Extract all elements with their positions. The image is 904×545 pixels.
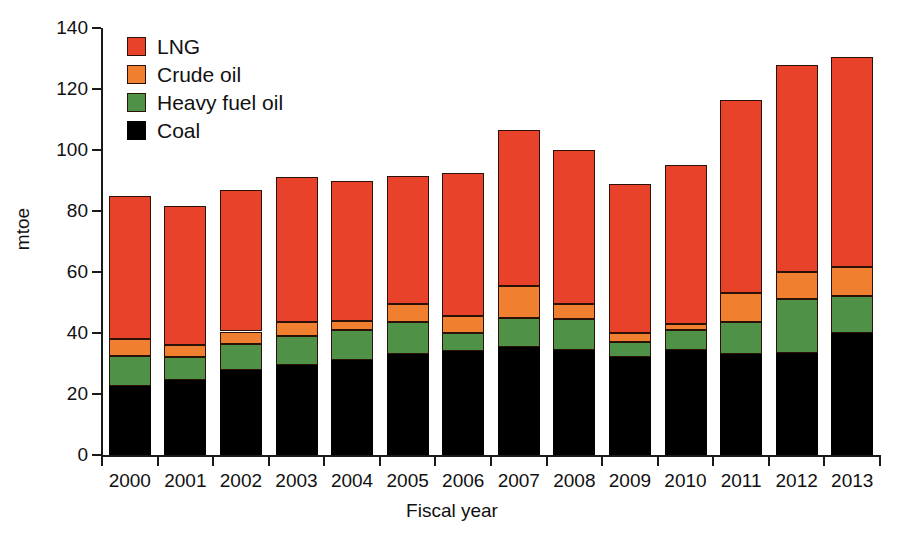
bar-segment-heavy-fuel-oil bbox=[109, 356, 151, 386]
bar-segment-lng bbox=[665, 165, 707, 324]
y-axis-title: mtoe bbox=[12, 184, 34, 274]
bar-segment-coal bbox=[776, 353, 818, 455]
x-axis-tick bbox=[268, 457, 270, 466]
y-axis-tick bbox=[92, 393, 101, 395]
bar-2009 bbox=[609, 28, 651, 455]
bar-segment-crude-oil bbox=[665, 324, 707, 330]
bar-segment-crude-oil bbox=[776, 272, 818, 299]
bar-segment-coal bbox=[164, 380, 206, 455]
bar-segment-heavy-fuel-oil bbox=[609, 342, 651, 357]
bar-segment-lng bbox=[609, 184, 651, 333]
bar-segment-heavy-fuel-oil bbox=[553, 319, 595, 350]
y-axis-tick bbox=[92, 271, 101, 273]
y-axis-tick-label: 20 bbox=[36, 384, 88, 403]
bar-segment-heavy-fuel-oil bbox=[276, 336, 318, 365]
bar-2010 bbox=[665, 28, 707, 455]
bar-2007 bbox=[498, 28, 540, 455]
bar-segment-heavy-fuel-oil bbox=[387, 322, 429, 354]
bar-segment-coal bbox=[220, 370, 262, 455]
legend-item-label: Heavy fuel oil bbox=[157, 92, 283, 113]
y-axis-tick-label: 140 bbox=[36, 18, 88, 37]
bar-segment-crude-oil bbox=[276, 322, 318, 336]
bar-segment-heavy-fuel-oil bbox=[442, 333, 484, 351]
bar-segment-lng bbox=[331, 181, 373, 321]
bar-segment-crude-oil bbox=[164, 345, 206, 357]
bar-2012 bbox=[776, 28, 818, 455]
bar-segment-crude-oil bbox=[720, 293, 762, 322]
bar-segment-crude-oil bbox=[387, 304, 429, 322]
legend-item: Heavy fuel oil bbox=[127, 88, 367, 116]
bar-segment-crude-oil bbox=[831, 267, 873, 296]
bar-segment-heavy-fuel-oil bbox=[164, 357, 206, 380]
bar-segment-crude-oil bbox=[553, 304, 595, 319]
x-axis-tick-label: 2013 bbox=[817, 470, 887, 492]
x-axis-title: Fiscal year bbox=[0, 500, 904, 522]
y-axis-tick-label: 100 bbox=[36, 140, 88, 159]
y-axis-tick-label: 60 bbox=[36, 262, 88, 281]
bar-segment-lng bbox=[220, 190, 262, 332]
bar-segment-coal bbox=[665, 350, 707, 455]
legend-swatch-icon bbox=[127, 65, 146, 84]
bar-segment-heavy-fuel-oil bbox=[665, 330, 707, 350]
bar-segment-lng bbox=[276, 177, 318, 322]
x-axis-tick bbox=[657, 457, 659, 466]
y-axis-tick bbox=[92, 88, 101, 90]
bar-segment-coal bbox=[609, 357, 651, 455]
y-axis-tick-label: 120 bbox=[36, 79, 88, 98]
bar-segment-coal bbox=[387, 354, 429, 455]
bar-segment-heavy-fuel-oil bbox=[220, 344, 262, 370]
x-axis-tick bbox=[768, 457, 770, 466]
bar-segment-lng bbox=[720, 100, 762, 294]
bar-segment-crude-oil bbox=[220, 332, 262, 344]
bar-segment-crude-oil bbox=[498, 286, 540, 318]
bar-segment-lng bbox=[387, 176, 429, 304]
bar-2006 bbox=[442, 28, 484, 455]
x-axis-tick bbox=[712, 457, 714, 466]
bar-segment-crude-oil bbox=[609, 333, 651, 342]
y-axis-tick-label: 40 bbox=[36, 323, 88, 342]
x-axis-tick bbox=[601, 457, 603, 466]
bar-segment-coal bbox=[109, 386, 151, 455]
y-axis-tick bbox=[92, 332, 101, 334]
bar-segment-coal bbox=[276, 365, 318, 455]
bar-segment-lng bbox=[776, 65, 818, 272]
bar-segment-lng bbox=[553, 150, 595, 304]
y-axis-tick-label: 80 bbox=[36, 201, 88, 220]
legend-item: LNG bbox=[127, 32, 367, 60]
bar-segment-heavy-fuel-oil bbox=[498, 318, 540, 347]
bar-segment-heavy-fuel-oil bbox=[776, 299, 818, 352]
x-axis-tick bbox=[546, 457, 548, 466]
bar-segment-coal bbox=[331, 360, 373, 455]
bar-2005 bbox=[387, 28, 429, 455]
legend-item-label: Crude oil bbox=[157, 64, 241, 85]
y-axis-tick bbox=[92, 149, 101, 151]
bar-segment-coal bbox=[720, 354, 762, 455]
bar-segment-coal bbox=[442, 351, 484, 455]
stacked-bar-chart: 020406080100120140 mtoe 2000200120022003… bbox=[0, 0, 904, 545]
y-axis-tick bbox=[92, 210, 101, 212]
legend-swatch-icon bbox=[127, 93, 146, 112]
legend-swatch-icon bbox=[127, 121, 146, 140]
bar-segment-heavy-fuel-oil bbox=[831, 296, 873, 333]
bar-segment-heavy-fuel-oil bbox=[331, 330, 373, 361]
bar-segment-lng bbox=[442, 173, 484, 316]
x-axis-tick bbox=[101, 457, 103, 466]
legend-swatch-icon bbox=[127, 37, 146, 56]
x-axis-tick bbox=[879, 457, 881, 466]
x-axis-tick bbox=[212, 457, 214, 466]
x-axis-tick bbox=[823, 457, 825, 466]
bar-2011 bbox=[720, 28, 762, 455]
bar-segment-heavy-fuel-oil bbox=[720, 322, 762, 354]
bar-segment-crude-oil bbox=[109, 339, 151, 356]
y-axis-tick bbox=[92, 454, 101, 456]
y-axis-tick-label: 0 bbox=[36, 445, 88, 464]
x-axis-tick bbox=[323, 457, 325, 466]
bar-segment-coal bbox=[553, 350, 595, 455]
x-axis-tick bbox=[434, 457, 436, 466]
bar-segment-lng bbox=[109, 196, 151, 339]
x-axis-tick bbox=[157, 457, 159, 466]
bar-2013 bbox=[831, 28, 873, 455]
y-axis-tick bbox=[92, 27, 101, 29]
bar-segment-lng bbox=[498, 130, 540, 286]
bar-segment-lng bbox=[164, 206, 206, 345]
